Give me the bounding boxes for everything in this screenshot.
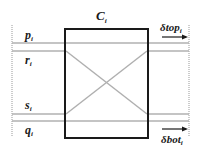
cell-label: Ci [96,8,107,25]
label-p: pi [24,28,33,43]
label-r: ri [25,53,32,68]
arrow-top-head-icon [182,35,188,40]
cell-diagram: Ci pi ri si qi δtopi δboti [0,0,201,155]
label-q: qi [25,123,33,138]
label-delta-bottom: δboti [161,133,183,147]
label-s: si [24,98,32,113]
label-delta-top: δtopi [160,21,182,35]
arrow-bottom-head-icon [182,127,188,132]
